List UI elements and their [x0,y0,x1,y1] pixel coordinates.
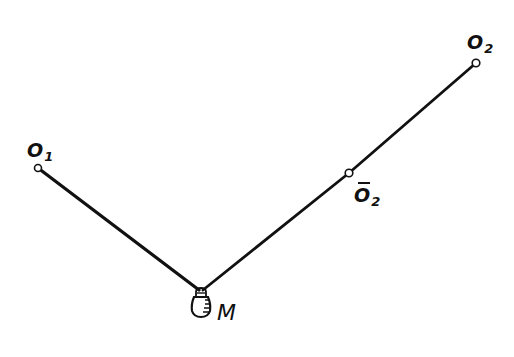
diagram-canvas [0,0,514,357]
label-o2-main: O [467,31,483,53]
label-o2bar-main: O [354,184,370,206]
pivot-o1-icon [35,165,42,172]
rod-m-o2bar [203,173,349,290]
label-o2bar-sub: 2 [371,194,380,209]
rod-o1-m [38,168,199,290]
label-m-text: M [217,300,236,325]
label-o1-sub: 1 [44,149,53,164]
label-o2: O2 [467,33,493,55]
label-o2-sub: 2 [484,41,493,56]
label-o2bar: O2 [354,186,380,208]
label-o1: O1 [27,141,53,163]
pivot-o2-icon [472,59,480,67]
rod-o2bar-o2 [349,63,476,173]
overbar [358,182,370,184]
label-o1-main: O [27,139,43,161]
pivot-o2bar-icon [345,169,353,177]
weight-m-icon [192,288,211,317]
label-m: M [217,302,236,324]
